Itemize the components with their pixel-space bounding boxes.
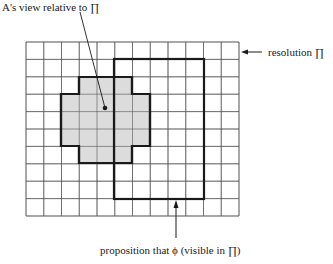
view-label: A's view relative to ∏: [2, 1, 99, 14]
grid-overlay: [26, 42, 239, 216]
view-point-dot: [103, 106, 108, 111]
resolution-label: resolution ∏: [268, 46, 324, 59]
agent-view-region: [61, 77, 150, 163]
proposition-label: proposition that ϕ (visible in ∏): [100, 244, 241, 257]
proposition-arrow-head-icon: [174, 200, 179, 208]
resolution-arrow-head-icon: [241, 50, 248, 55]
diagram: A's view relative to ∏ resolution ∏ prop…: [0, 0, 333, 264]
